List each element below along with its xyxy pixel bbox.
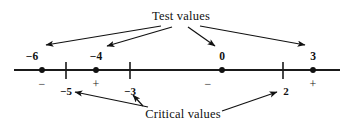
test-value-dot-three (310, 67, 316, 73)
arrow-critical-values-to-neg5 (75, 92, 148, 107)
test-value-dot-zero (219, 67, 225, 73)
sign-label-interval-1: − (39, 78, 46, 90)
arrow-critical-values-to-two (222, 92, 277, 111)
critical-value-label-neg5: −5 (60, 86, 72, 97)
test-value-dot-neg6 (39, 67, 45, 73)
sign-label-interval-2: + (93, 78, 100, 90)
sign-label-interval-3: − (205, 78, 212, 90)
number-line-figure: Test values Critical values −6 −4 0 3 − … (0, 0, 350, 130)
sign-label-interval-4: + (310, 78, 317, 90)
arrow-test-values-to-three (200, 26, 305, 45)
test-value-label-neg4: −4 (90, 51, 102, 63)
test-values-annotation: Test values (152, 10, 210, 23)
critical-value-label-two: 2 (283, 86, 289, 97)
arrow-test-values-to-neg6 (46, 26, 161, 45)
test-value-dot-neg4 (93, 67, 99, 73)
test-value-label-zero: 0 (219, 51, 225, 63)
arrow-test-values-to-neg4 (107, 27, 172, 46)
critical-value-label-neg3: −3 (124, 86, 136, 97)
test-value-label-three: 3 (310, 51, 316, 63)
arrow-test-values-to-zero (188, 27, 215, 46)
critical-values-annotation: Critical values (145, 108, 221, 121)
test-value-label-neg6: −6 (26, 51, 38, 63)
